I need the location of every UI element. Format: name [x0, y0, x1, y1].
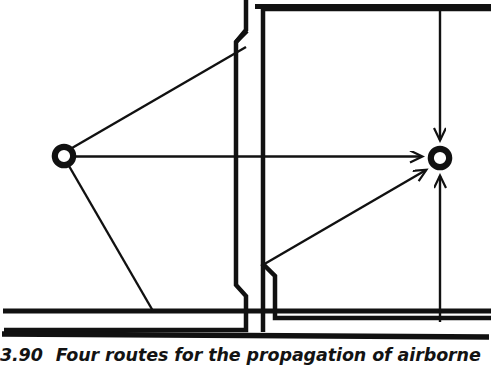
route-group [69, 8, 440, 322]
route-under-floor [69, 166, 153, 311]
partition-left-face [4, 0, 246, 330]
figure-caption-text: Four routes for the propagation of airbo… [56, 345, 481, 365]
floor-line-lower [2, 334, 489, 337]
wall-group [2, 0, 491, 337]
floor-plan-diagram [0, 0, 491, 370]
figure-caption: 3.90Four routes for the propagation of a… [0, 345, 491, 370]
route-from-floor-void [261, 170, 426, 266]
sound-source [55, 147, 73, 165]
right-room-ceiling-and-wall [263, 9, 491, 332]
sound-receiver [431, 149, 449, 167]
figure-container: 3.90Four routes for the propagation of a… [0, 0, 491, 370]
figure-caption-number: 3.90 [0, 345, 43, 365]
route-over-ceiling [72, 47, 246, 148]
